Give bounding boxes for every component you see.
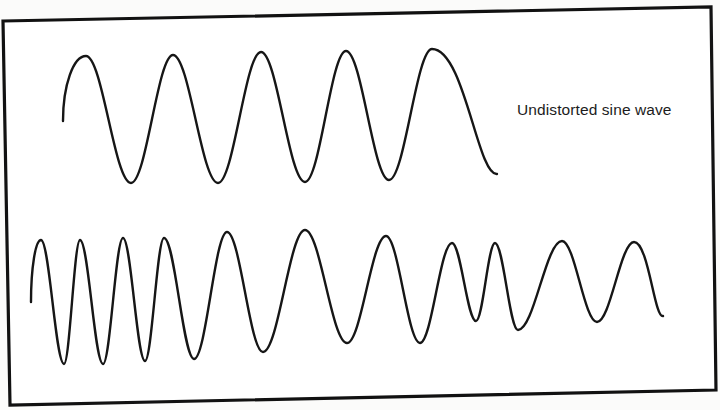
wave-diagram [0,0,720,410]
diagram-frame [3,7,716,405]
undistorted-sine-wave-label: Undistorted sine wave [517,101,672,119]
